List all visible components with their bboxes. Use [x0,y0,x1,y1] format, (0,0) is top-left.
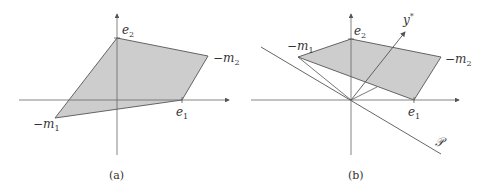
panel-a: e2 −m2 e1 −m1 (a) [19,14,240,182]
label-plane-p: 𝒫 [435,135,447,149]
label-e1-b: e1 [408,105,420,121]
caption-a: (a) [109,169,124,182]
figure-canvas: e2 −m2 e1 −m1 (a) e2 −m1 −m2 e1 y* 𝒫 (b) [0,0,483,188]
label-m2-a: −m2 [213,51,240,67]
label-m1-b: −m1 [287,39,314,55]
feasible-polygon-a [55,38,208,118]
caption-b: (b) [348,169,364,182]
ray-to-edge [351,87,377,100]
label-y-star: y* [402,12,414,27]
panel-b: e2 −m1 −m2 e1 y* 𝒫 (b) [251,12,472,182]
label-e2-a: e2 [122,23,134,39]
label-m1-a: −m1 [33,117,60,133]
label-m2-b: −m2 [445,52,472,68]
label-e1-a: e1 [176,105,188,121]
label-e2-b: e2 [354,24,366,40]
